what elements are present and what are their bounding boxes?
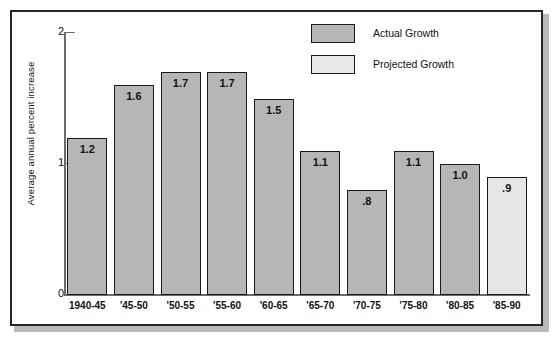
y-tick-label: 2 bbox=[46, 26, 64, 37]
chart-figure: Average annual percent increase 210 1.21… bbox=[0, 0, 558, 342]
bar: 1.5 bbox=[254, 99, 294, 296]
bar: 1.6 bbox=[114, 85, 154, 295]
bar: 1.1 bbox=[300, 151, 340, 295]
bar: 1.1 bbox=[394, 151, 434, 295]
bar-value-label: 1.6 bbox=[115, 91, 153, 102]
legend-swatch-actual-growth bbox=[311, 24, 355, 43]
bar-group: 1.21.61.71.71.51.1.81.11.0.9 bbox=[64, 32, 530, 295]
legend-label-projected-growth: Projected Growth bbox=[373, 58, 454, 70]
y-tick-label: 1 bbox=[46, 157, 64, 168]
bar: .8 bbox=[347, 190, 387, 295]
bar: 1.2 bbox=[67, 138, 107, 295]
x-axis-label-group: 1940-45'45-50'50-55'55-60'60-65'65-70'70… bbox=[64, 300, 530, 320]
y-tick-label-wrap: 0 bbox=[40, 294, 64, 295]
bar: 1.7 bbox=[207, 72, 247, 295]
bar-value-label: 1.0 bbox=[441, 170, 479, 181]
legend-item-actual-growth: Actual Growth bbox=[311, 22, 439, 44]
bar-value-label: 1.1 bbox=[301, 157, 339, 168]
bar-value-label: .8 bbox=[348, 196, 386, 207]
y-tick-label-wrap: 2 bbox=[40, 32, 64, 33]
bar-value-label: 1.7 bbox=[162, 78, 200, 89]
bar-value-label: 1.5 bbox=[255, 105, 293, 116]
legend-swatch-projected-growth bbox=[311, 55, 355, 74]
bar: 1.7 bbox=[161, 72, 201, 295]
legend-item-projected-growth: Projected Growth bbox=[311, 53, 454, 75]
y-tick-label-wrap: 1 bbox=[40, 163, 64, 164]
bar-value-label: 1.2 bbox=[68, 144, 106, 155]
bar: .9 bbox=[487, 177, 527, 295]
legend-label-actual-growth: Actual Growth bbox=[373, 27, 439, 39]
bar-value-label: 1.1 bbox=[395, 157, 433, 168]
plot-area: Average annual percent increase 210 1.21… bbox=[0, 0, 558, 342]
y-axis-title: Average annual percent increase bbox=[25, 34, 36, 234]
bar-value-label: .9 bbox=[488, 183, 526, 194]
x-axis-label: '85-90 bbox=[480, 300, 534, 312]
bar: 1.0 bbox=[440, 164, 480, 295]
y-tick-label: 0 bbox=[46, 288, 64, 299]
bar-value-label: 1.7 bbox=[208, 78, 246, 89]
